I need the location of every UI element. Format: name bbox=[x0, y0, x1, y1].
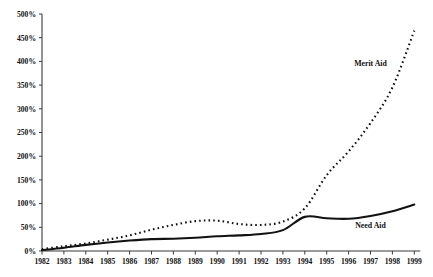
x-tick-label: 1987 bbox=[144, 257, 159, 266]
y-tick-label: 500% bbox=[17, 10, 36, 19]
x-tick-label: 1995 bbox=[319, 257, 334, 266]
y-tick-label: 400% bbox=[17, 57, 36, 66]
x-tick-label: 1991 bbox=[232, 257, 247, 266]
series-label-merit-aid: Merit Aid bbox=[354, 59, 387, 68]
series-annotations: Merit AidNeed Aid bbox=[354, 59, 387, 230]
x-tick-label: 1986 bbox=[122, 257, 137, 266]
x-tick-label: 1983 bbox=[56, 257, 71, 266]
y-tick-label: 50% bbox=[21, 223, 36, 232]
y-tick-label: 350% bbox=[17, 81, 36, 90]
x-tick-label: 1996 bbox=[341, 257, 356, 266]
x-tick-label: 1984 bbox=[78, 257, 93, 266]
x-tick-label: 1994 bbox=[297, 257, 312, 266]
y-tick-label: 150% bbox=[17, 176, 36, 185]
x-tick-label: 1990 bbox=[210, 257, 225, 266]
x-tick-label: 1989 bbox=[188, 257, 203, 266]
x-tick-label: 1997 bbox=[363, 257, 378, 266]
x-tick-label: 1982 bbox=[34, 257, 49, 266]
series-label-need-aid: Need Aid bbox=[355, 221, 386, 230]
y-tick-label: 200% bbox=[17, 152, 36, 161]
x-axis: 1982198319841985198619871988198919901991… bbox=[34, 251, 422, 266]
y-tick-label: 300% bbox=[17, 105, 36, 114]
y-axis: 0%50%100%150%200%250%300%350%400%450%500… bbox=[17, 10, 42, 256]
x-tick-label: 1998 bbox=[385, 257, 400, 266]
y-tick-label: 250% bbox=[17, 128, 36, 137]
x-tick-label: 1992 bbox=[253, 257, 268, 266]
y-tick-label: 100% bbox=[17, 199, 36, 208]
y-tick-label: 450% bbox=[17, 34, 36, 43]
chart-container: 0%50%100%150%200%250%300%350%400%450%500… bbox=[0, 0, 433, 277]
x-tick-label: 1999 bbox=[407, 257, 422, 266]
x-tick-label: 1988 bbox=[166, 257, 181, 266]
y-tick-label: 0% bbox=[25, 247, 36, 256]
x-tick-label: 1985 bbox=[100, 257, 115, 266]
line-chart: 0%50%100%150%200%250%300%350%400%450%500… bbox=[0, 0, 433, 277]
x-tick-label: 1993 bbox=[275, 257, 290, 266]
